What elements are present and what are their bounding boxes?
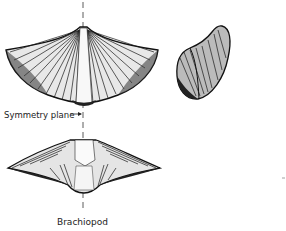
anterior-view-shell — [8, 140, 160, 193]
dorsal-view-shell — [6, 27, 158, 106]
brachiopod-figure: Symmetry plane Brachiopod — [0, 0, 286, 231]
side-view-shell — [177, 26, 230, 99]
symmetry-plane-label: Symmetry plane — [4, 110, 74, 120]
arrow-head-icon — [78, 112, 82, 116]
figure-caption: Brachiopod — [57, 217, 108, 227]
